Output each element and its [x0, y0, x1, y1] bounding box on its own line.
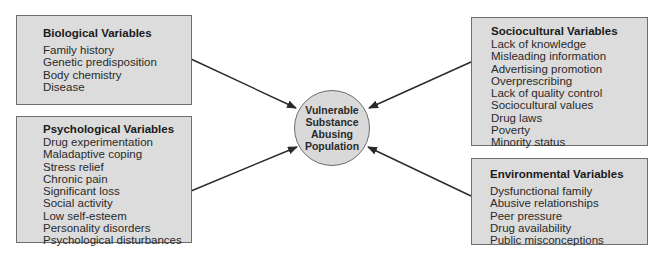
list-item: Disease	[43, 81, 191, 93]
list-item: Psychological disturbances	[43, 234, 191, 246]
list-item: Personality disorders	[43, 222, 191, 234]
list-item: Advertising promotion	[491, 63, 647, 75]
variable-list: Dysfunctional family Abusive relationshi…	[490, 185, 647, 246]
list-item: Minority status	[491, 136, 647, 148]
list-item: Drug availability	[490, 222, 647, 234]
center-label-line: Substance	[305, 116, 358, 128]
sociocultural-variables-box: Sociocultural Variables Lack of knowledg…	[471, 17, 648, 146]
list-item: Family history	[43, 44, 191, 56]
variable-list: Family history Genetic predisposition Bo…	[43, 44, 191, 93]
box-title: Sociocultural Variables	[491, 24, 647, 38]
list-item: Body chemistry	[43, 69, 191, 81]
box-title: Environmental Variables	[490, 167, 647, 181]
list-item: Poverty	[491, 124, 647, 136]
arrow-biological-to-center	[191, 59, 296, 108]
list-item: Chronic pain	[43, 173, 191, 185]
psychological-variables-box: Psychological Variables Drug experimenta…	[16, 116, 192, 243]
list-item: Lack of knowledge	[491, 38, 647, 50]
center-label-line: Population	[305, 140, 359, 152]
box-title: Biological Variables	[43, 26, 191, 40]
arrow-psychological-to-center	[191, 147, 297, 191]
center-label-line: Abusing	[311, 128, 353, 140]
list-item: Stress relief	[43, 161, 191, 173]
list-item: Lack of quality control	[491, 87, 647, 99]
variable-list: Drug experimentation Maladaptive coping …	[43, 136, 191, 247]
list-item: Drug experimentation	[43, 136, 191, 148]
list-item: Low self-esteem	[43, 210, 191, 222]
list-item: Abusive relationships	[490, 197, 647, 209]
arrow-sociocultural-to-center	[369, 62, 471, 108]
box-title: Psychological Variables	[43, 122, 191, 136]
list-item: Dysfunctional family	[490, 185, 647, 197]
arrow-environmental-to-center	[368, 147, 471, 196]
list-item: Public misconceptions	[490, 234, 647, 246]
figure-caption-clipped	[95, 249, 395, 256]
list-item: Drug laws	[491, 112, 647, 124]
list-item: Social activity	[43, 197, 191, 209]
list-item: Misleading information	[491, 50, 647, 62]
center-node-vulnerable-population: Vulnerable Substance Abusing Population	[294, 90, 370, 166]
list-item: Sociocultural values	[491, 99, 647, 111]
environmental-variables-box: Environmental Variables Dysfunctional fa…	[471, 158, 648, 245]
variable-list: Lack of knowledge Misleading information…	[491, 38, 647, 149]
center-label-line: Vulnerable	[305, 104, 358, 116]
list-item: Significant loss	[43, 185, 191, 197]
list-item: Genetic predisposition	[43, 56, 191, 68]
list-item: Peer pressure	[490, 210, 647, 222]
list-item: Maladaptive coping	[43, 148, 191, 160]
biological-variables-box: Biological Variables Family history Gene…	[16, 15, 192, 105]
list-item: Overprescribing	[491, 75, 647, 87]
